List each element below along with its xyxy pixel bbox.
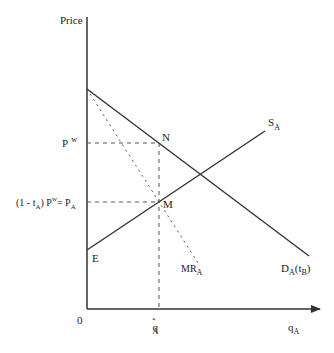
supply-curve (87, 131, 265, 250)
marginal-revenue-curve (87, 89, 198, 263)
origin-label: 0 (77, 314, 83, 326)
y-axis-label: Price (60, 14, 83, 26)
point-m-label: M (163, 198, 173, 210)
world-price-label: Pw (62, 135, 77, 149)
point-n-label: N (162, 131, 170, 143)
marginal-revenue-label: MRA (181, 263, 203, 277)
domestic-price-label: (1 - tA) Pw= PA (16, 195, 76, 211)
optimal-quantity-label: q*A (152, 316, 159, 336)
demand-curve (87, 89, 309, 256)
x-axis-label: qA (288, 321, 300, 336)
point-e-label: E (92, 252, 99, 264)
economics-diagram: Price 0 qA Pw (1 - tA) Pw= PA q*A SA DA(… (0, 0, 334, 353)
demand-curve-label: DA(tB) (281, 262, 311, 277)
supply-curve-label: SA (268, 116, 280, 132)
